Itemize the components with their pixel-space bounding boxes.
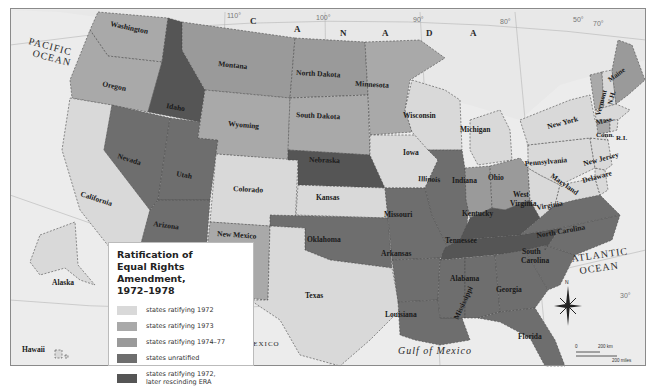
legend-item-unratified: states unratified <box>117 350 245 366</box>
legend-title-line-2: Equal Rights Amendment, <box>117 261 245 285</box>
legend-label-rescinded-line-2: later rescinding ERA <box>146 378 212 386</box>
legend-item-1972: states ratifying 1972 <box>117 302 245 318</box>
legend-item-1973: states ratifying 1973 <box>117 318 245 334</box>
legend-label-rescinded: states ratifying 1972, later rescinding … <box>146 370 216 386</box>
legend-label-1974-77: states ratifying 1974–77 <box>146 338 225 346</box>
legend-item-1974-77: states ratifying 1974–77 <box>117 334 245 350</box>
swatch-1974-77 <box>117 338 137 347</box>
swatch-rescinded <box>117 374 137 383</box>
swatch-unratified <box>117 354 137 363</box>
legend-item-rescinded: states ratifying 1972, later rescinding … <box>117 366 245 390</box>
map-frame <box>10 8 646 366</box>
legend-panel: Ratification of Equal Rights Amendment, … <box>108 242 254 366</box>
legend-label-rescinded-line-1: states ratifying 1972, <box>146 370 216 378</box>
swatch-1973 <box>117 322 137 331</box>
legend-label-unratified: states unratified <box>146 354 199 362</box>
legend-title: Ratification of Equal Rights Amendment, … <box>117 249 245 297</box>
legend-title-line-1: Ratification of <box>117 249 245 261</box>
legend-title-line-3: 1972–1978 <box>117 285 245 297</box>
swatch-1972 <box>117 306 137 315</box>
legend-label-1973: states ratifying 1973 <box>146 322 214 330</box>
legend-label-1972: states ratifying 1972 <box>146 306 214 314</box>
